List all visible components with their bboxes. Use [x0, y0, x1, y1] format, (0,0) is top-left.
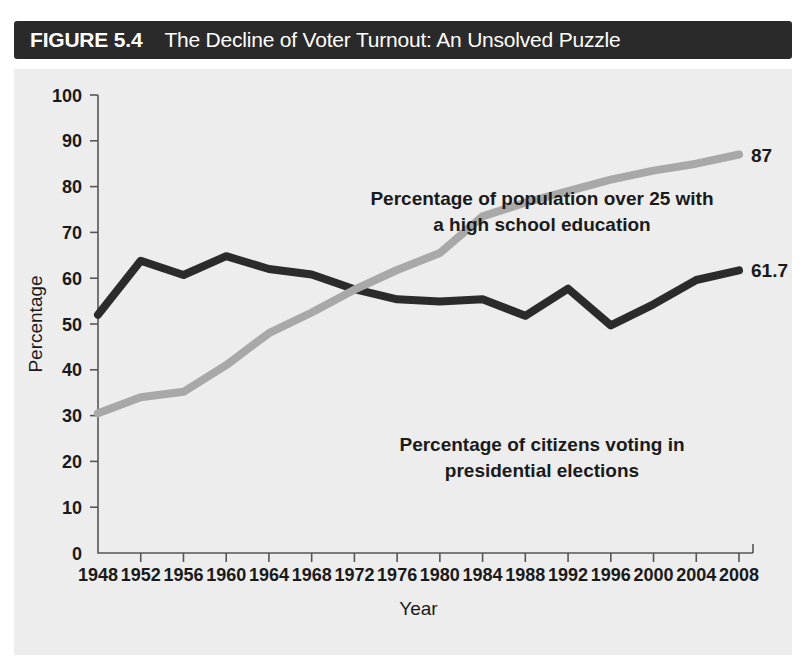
- y-axis-tick-labels: 0102030405060708090100: [52, 86, 82, 564]
- turnout-end-value-label: 61.7: [751, 260, 788, 281]
- y-tick-label: 0: [72, 544, 82, 564]
- y-tick-label: 10: [62, 498, 82, 518]
- y-tick-label: 60: [62, 269, 82, 289]
- axis-lines: [98, 95, 753, 553]
- education-annotation: Percentage of population over 25 witha h…: [370, 188, 713, 235]
- axis-frame: [98, 95, 753, 553]
- annotation-line: Percentage of population over 25 with: [370, 188, 713, 209]
- y-tick-label: 100: [52, 86, 82, 106]
- y-tick-label: 70: [62, 223, 82, 243]
- x-axis-tick-labels: 1948195219561960196419681972197619801984…: [78, 565, 759, 585]
- figure-number-label: FIGURE 5.4: [30, 28, 142, 52]
- annotation-line: presidential elections: [445, 460, 639, 481]
- x-tick-label: 1956: [163, 565, 203, 585]
- x-tick-label: 1948: [78, 565, 118, 585]
- y-tick-label: 80: [62, 177, 82, 197]
- y-tick-label: 90: [62, 131, 82, 151]
- x-tick-label: 1952: [121, 565, 161, 585]
- x-tick-label: 1972: [334, 565, 374, 585]
- x-tick-label: 2000: [634, 565, 674, 585]
- x-tick-label: 1980: [420, 565, 460, 585]
- figure-container: FIGURE 5.4 The Decline of Voter Turnout:…: [0, 0, 806, 669]
- page-title: The Decline of Voter Turnout: An Unsolve…: [164, 28, 620, 52]
- line-chart: 0102030405060708090100 19481952195619601…: [14, 69, 792, 655]
- chart-plot-panel: 0102030405060708090100 19481952195619601…: [14, 69, 792, 655]
- y-tick-label: 50: [62, 315, 82, 335]
- x-tick-label: 1960: [206, 565, 246, 585]
- x-tick-label: 1984: [463, 565, 503, 585]
- y-tick-label: 20: [62, 452, 82, 472]
- x-tick-label: 1988: [505, 565, 545, 585]
- axis-tick-marks: [90, 95, 739, 562]
- turnout-annotation: Percentage of citizens voting inpresiden…: [399, 434, 684, 481]
- turnout-series-line: [98, 256, 739, 325]
- series-end-labels: 61.787: [751, 145, 788, 282]
- x-tick-label: 1964: [249, 565, 289, 585]
- education-end-value-label: 87: [751, 145, 772, 166]
- series-annotations: Percentage of population over 25 witha h…: [370, 188, 713, 481]
- x-tick-label: 1976: [377, 565, 417, 585]
- figure-title-banner: FIGURE 5.4 The Decline of Voter Turnout:…: [14, 21, 792, 59]
- x-tick-label: 1992: [548, 565, 588, 585]
- x-axis-title: Year: [399, 598, 438, 619]
- x-tick-label: 2008: [719, 565, 759, 585]
- x-tick-label: 1996: [591, 565, 631, 585]
- x-tick-label: 1968: [292, 565, 332, 585]
- y-tick-label: 40: [62, 360, 82, 380]
- y-tick-label: 30: [62, 406, 82, 426]
- y-axis-title: Percentage: [25, 275, 46, 372]
- annotation-line: Percentage of citizens voting in: [399, 434, 684, 455]
- annotation-line: a high school education: [433, 214, 650, 235]
- x-tick-label: 2004: [676, 565, 716, 585]
